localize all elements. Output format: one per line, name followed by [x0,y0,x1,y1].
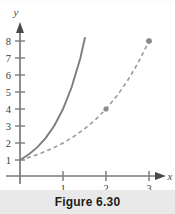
x-axis-arrow-icon [155,172,166,180]
x-tick-label-3: 3 [146,183,151,190]
x-tick-label-1: 1 [60,183,65,190]
solid-curve [20,38,85,160]
y-tick-label-2: 2 [6,138,11,149]
y-tick-label-6: 6 [6,70,11,81]
chart-svg: y x 1 2 3 4 5 6 7 8 [0,0,175,190]
data-point-1-2 [103,106,108,111]
y-tick-label-7: 7 [6,53,11,64]
figure-container: y x 1 2 3 4 5 6 7 8 [0,0,175,214]
plot-area: y x 1 2 3 4 5 6 7 8 [0,0,175,190]
dashed-curve [20,41,149,160]
y-axis-label: y [13,6,19,18]
y-tick-label-3: 3 [6,121,11,132]
y-axis-arrow-icon [16,22,24,33]
data-point-3-8 [146,38,152,44]
y-tick-label-1: 1 [6,155,11,166]
y-tick-label-8: 8 [6,36,11,47]
x-axis-label: x [167,170,173,182]
y-tick-label-4: 4 [6,104,12,115]
figure-caption: Figure 6.30 [0,190,175,214]
x-tick-label-2: 2 [103,183,108,190]
y-tick-label-5: 5 [6,87,11,98]
